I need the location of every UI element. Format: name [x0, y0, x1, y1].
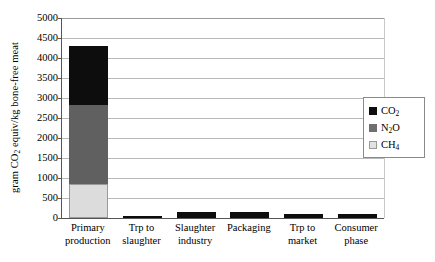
legend-label: CH4	[381, 139, 399, 150]
bar-segment-co2	[230, 212, 269, 218]
y-axis-tick-label: 4000	[37, 53, 58, 63]
gridline	[62, 98, 384, 99]
y-axis-tick-label: 1000	[37, 173, 58, 183]
legend-item-co2[interactable]: CO2	[369, 102, 420, 119]
legend-item-ch4[interactable]: CH4	[369, 136, 420, 153]
legend-swatch-n2o	[369, 124, 377, 132]
gridline	[62, 158, 384, 159]
y-axis-tick-mark	[58, 178, 62, 179]
bar-trp-to-market[interactable]	[284, 214, 323, 218]
gridline	[62, 18, 384, 19]
gridline	[62, 178, 384, 179]
y-axis-tick-mark	[58, 218, 62, 219]
bar-trp-to-slaughter[interactable]	[123, 216, 162, 218]
bar-consumer-phase[interactable]	[338, 214, 377, 218]
y-axis-tick-mark	[58, 78, 62, 79]
bar-segment-n2o	[69, 105, 108, 184]
y-axis-tick-mark	[58, 38, 62, 39]
y-axis-tick-label: 3500	[37, 73, 58, 83]
bar-segment-co2	[284, 214, 323, 218]
y-axis-tick-mark	[58, 198, 62, 199]
x-axis-tick-label-line: phase	[323, 235, 389, 248]
y-axis-tick-label: 2500	[37, 113, 58, 123]
gridline	[62, 58, 384, 59]
y-axis-tick-mark	[58, 138, 62, 139]
y-axis-tick-label: 4500	[37, 33, 58, 43]
y-axis-tick-label: 500	[42, 193, 58, 203]
y-axis-tick-labels: 0500100015002000250030003500400045005000	[18, 0, 58, 262]
x-axis-tick-label-line: industry	[162, 235, 228, 248]
bar-slaughter-industry[interactable]	[177, 212, 216, 218]
y-axis-tick-mark	[58, 158, 62, 159]
bar-segment-co2	[123, 216, 162, 218]
legend-label: N2O	[381, 122, 400, 133]
y-axis-tick-label: 3000	[37, 93, 58, 103]
x-axis-tick-label: Consumerphase	[323, 222, 389, 247]
y-axis-tick-label: 2000	[37, 133, 58, 143]
gridline	[62, 198, 384, 199]
plot-area	[61, 18, 384, 219]
y-axis-tick-mark	[58, 98, 62, 99]
legend-swatch-ch4	[369, 141, 377, 149]
bar-segment-co2	[69, 46, 108, 105]
bar-primary-production[interactable]	[69, 46, 108, 218]
bar-packaging[interactable]	[230, 212, 269, 218]
gridline	[62, 118, 384, 119]
bar-segment-ch4	[69, 184, 108, 218]
bar-segment-co2	[177, 212, 216, 218]
gridline	[62, 78, 384, 79]
chart-figure: gram CO2 equiv/kg bone-free meat 0500100…	[0, 0, 435, 262]
bar-segment-co2	[338, 214, 377, 218]
y-axis-tick-mark	[58, 18, 62, 19]
y-axis-tick-label: 1500	[37, 153, 58, 163]
legend: CO2N2OCH4	[363, 97, 425, 158]
gridline	[62, 138, 384, 139]
gridline	[62, 38, 384, 39]
x-axis-tick-label-line: Consumer	[323, 222, 389, 235]
legend-item-n2o[interactable]: N2O	[369, 119, 420, 136]
y-axis-tick-label: 5000	[37, 13, 58, 23]
y-axis-tick-mark	[58, 118, 62, 119]
y-axis-tick-mark	[58, 58, 62, 59]
legend-swatch-co2	[369, 107, 377, 115]
x-axis-tick-labels: PrimaryproductionTrp toslaughterSlaughte…	[61, 222, 383, 262]
legend-label: CO2	[381, 105, 399, 116]
